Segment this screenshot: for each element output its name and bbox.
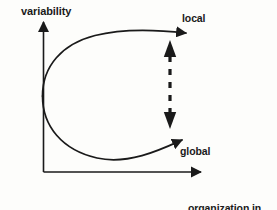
- dashed-double-arrow: [164, 40, 176, 129]
- x-axis-label: organization in time and space: [188, 177, 262, 210]
- dashed-arrow-head-up: [164, 40, 176, 57]
- lower-branch-label: global: [180, 145, 210, 157]
- upper-branch-label: local: [182, 12, 205, 24]
- x-axis-label-line-1: organization in: [188, 202, 262, 210]
- figure-canvas: variability local global organization in…: [0, 0, 277, 210]
- dashed-arrow-head-down: [164, 112, 176, 129]
- lower-branch-curve: [43, 96, 183, 160]
- y-axis-label: variability: [21, 5, 71, 18]
- upper-branch-curve: [43, 30, 187, 96]
